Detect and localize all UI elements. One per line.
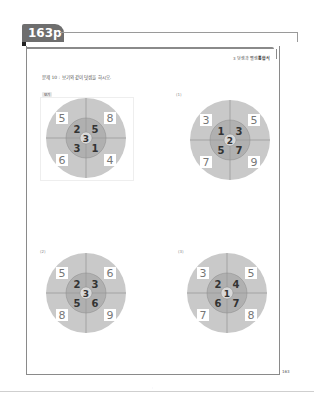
svg-text:2: 2: [227, 136, 233, 146]
svg-text:5: 5: [59, 267, 66, 280]
svg-text:3: 3: [203, 114, 210, 127]
svg-text:2: 2: [74, 124, 81, 135]
svg-text:7: 7: [200, 309, 207, 322]
svg-text:5: 5: [218, 145, 225, 156]
worksheet-top-border: [26, 47, 274, 49]
chapter-title: 덧셈과 뺄셈: [237, 56, 258, 61]
question-label-3: (3): [178, 249, 184, 254]
chapter-number: 3: [233, 56, 236, 61]
svg-text:8: 8: [107, 112, 114, 125]
svg-text:7: 7: [203, 156, 210, 169]
footer-line: [0, 391, 314, 392]
svg-text:6: 6: [59, 154, 66, 167]
svg-text:5: 5: [59, 112, 66, 125]
footer-mark: ·: [152, 386, 153, 390]
svg-text:3: 3: [236, 126, 243, 137]
svg-text:5: 5: [248, 267, 255, 280]
svg-text:6: 6: [215, 298, 222, 309]
svg-text:8: 8: [248, 309, 255, 322]
svg-text:1: 1: [92, 143, 99, 154]
svg-text:3: 3: [74, 143, 81, 154]
svg-text:2: 2: [215, 279, 222, 290]
number-disc-1: 357913572: [189, 99, 271, 181]
chapter-bold: 통합식: [258, 56, 270, 61]
page-number: 163: [282, 369, 290, 374]
svg-text:4: 4: [233, 279, 240, 290]
svg-text:9: 9: [107, 309, 114, 322]
svg-text:6: 6: [92, 298, 99, 309]
svg-text:3: 3: [83, 134, 89, 144]
svg-text:5: 5: [74, 298, 81, 309]
instruction: 문제 10 : 보기와 같이 덧셈을 하시오.: [42, 74, 111, 80]
number-disc-0: 586425313: [45, 97, 127, 179]
tab-line: [60, 32, 298, 33]
svg-text:3: 3: [200, 267, 207, 280]
question-label-1: (1): [176, 92, 182, 97]
svg-text:5: 5: [92, 124, 99, 135]
svg-text:9: 9: [251, 156, 258, 169]
page-tab: 163p: [22, 24, 64, 42]
worksheet-top-corner: [276, 49, 277, 59]
svg-text:3: 3: [83, 289, 89, 299]
svg-text:2: 2: [74, 279, 81, 290]
svg-text:7: 7: [233, 298, 240, 309]
svg-text:8: 8: [59, 309, 66, 322]
svg-text:3: 3: [92, 279, 99, 290]
svg-text:1: 1: [218, 126, 225, 137]
tab-line-end: [297, 32, 298, 42]
svg-text:7: 7: [236, 145, 243, 156]
number-disc-2: 568923563: [45, 252, 127, 334]
svg-text:6: 6: [107, 267, 114, 280]
svg-text:1: 1: [224, 289, 230, 299]
number-disc-3: 357824671: [186, 252, 268, 334]
svg-text:5: 5: [251, 114, 258, 127]
chapter-header: 3 덧셈과 뺄셈통합식: [233, 55, 270, 61]
svg-text:4: 4: [107, 154, 114, 167]
